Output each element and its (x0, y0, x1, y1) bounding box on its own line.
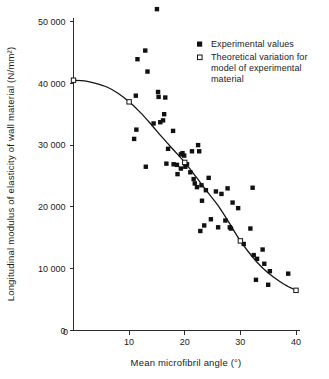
x-tick-label: 40 (291, 337, 301, 347)
theoretical-data-points (71, 78, 298, 293)
data-point-experimental (250, 186, 254, 190)
data-point-experimental (179, 166, 183, 170)
data-point-experimental (132, 137, 136, 141)
data-point-experimental (266, 283, 270, 287)
data-point-experimental (156, 95, 160, 99)
data-point-experimental (225, 186, 229, 190)
data-point-experimental (214, 189, 218, 193)
y-axis-ticks: 010 00020 00030 00040 00050 000 (38, 17, 74, 336)
data-point-experimental (209, 217, 213, 221)
data-point-experimental (200, 199, 204, 203)
data-point-experimental (171, 129, 175, 133)
data-point-experimental (190, 149, 194, 153)
y-tick-label: 10 000 (38, 264, 66, 274)
data-point-experimental (175, 172, 179, 176)
data-point-theoretical (294, 288, 298, 292)
x-tick-label: 20 (180, 337, 190, 347)
theoretical-model-curve (74, 80, 297, 290)
x-axis-ticks: 010203040 (63, 327, 301, 347)
data-point-experimental (164, 161, 168, 165)
data-point-theoretical (183, 160, 187, 164)
data-point-experimental (286, 271, 290, 275)
data-point-experimental (199, 183, 203, 187)
data-point-experimental (268, 269, 272, 273)
x-tick-label: 10 (124, 337, 134, 347)
data-point-experimental (202, 223, 206, 227)
data-point-experimental (175, 163, 179, 167)
x-tick-label: 30 (235, 337, 245, 347)
data-point-experimental (198, 229, 202, 233)
y-tick-label: 40 000 (38, 79, 66, 89)
legend: Experimental values Theoretical variatio… (197, 39, 308, 85)
data-point-experimental (206, 176, 210, 180)
data-point-experimental (163, 95, 167, 99)
data-point-experimental (155, 7, 159, 11)
data-point-experimental (134, 93, 138, 97)
legend-label-theoretical-line3: material (211, 74, 244, 84)
data-point-experimental (204, 188, 208, 192)
data-point-experimental (135, 57, 139, 61)
data-point-experimental (230, 200, 234, 204)
scatter-plot: 010 00020 00030 00040 00050 000 01020304… (0, 0, 329, 379)
y-tick-label: 20 000 (38, 202, 66, 212)
x-axis-title: Mean microfibril angle (°) (131, 357, 242, 368)
data-point-experimental (197, 149, 201, 153)
experimental-data-points (132, 7, 290, 287)
data-point-experimental (255, 257, 259, 261)
legend-label-theoretical-line1: Theoretical variation for (211, 52, 308, 62)
y-tick-label: 30 000 (38, 140, 66, 150)
data-point-experimental (262, 262, 266, 266)
x-tick-label: 0 (63, 327, 68, 337)
data-point-experimental (191, 177, 195, 181)
data-point-experimental (236, 206, 240, 210)
legend-label-experimental: Experimental values (211, 39, 294, 49)
data-point-theoretical (238, 239, 242, 243)
data-point-experimental (162, 112, 166, 116)
data-point-experimental (196, 143, 200, 147)
data-point-experimental (182, 153, 186, 157)
data-point-experimental (216, 225, 220, 229)
data-point-experimental (254, 278, 258, 282)
y-tick-label: 50 000 (38, 17, 66, 27)
data-point-theoretical (127, 100, 131, 104)
data-point-experimental (145, 69, 149, 73)
y-axis-title: Longitudinal modulus of elasticity of wa… (5, 47, 16, 302)
data-point-experimental (144, 165, 148, 169)
data-point-experimental (151, 121, 155, 125)
data-point-experimental (166, 147, 170, 151)
data-point-theoretical (71, 78, 75, 82)
data-point-experimental (229, 226, 233, 230)
data-point-experimental (260, 247, 264, 251)
legend-marker-theoretical (198, 55, 203, 60)
data-point-experimental (134, 127, 138, 131)
data-point-experimental (143, 48, 147, 52)
data-point-experimental (161, 118, 165, 122)
data-point-experimental (195, 185, 199, 189)
legend-marker-experimental (197, 42, 202, 47)
legend-label-theoretical-line2: model of experimental (211, 63, 302, 73)
chart-figure: 010 00020 00030 00040 00050 000 01020304… (0, 0, 329, 379)
data-point-experimental (219, 192, 223, 196)
data-point-experimental (156, 90, 160, 94)
data-point-experimental (248, 226, 252, 230)
data-point-experimental (223, 218, 227, 222)
data-point-experimental (188, 170, 192, 174)
